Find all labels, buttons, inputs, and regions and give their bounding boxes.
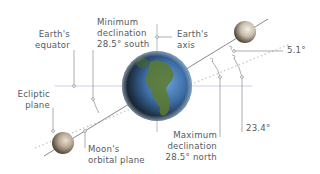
label-line: orbital plane (88, 155, 145, 166)
moon-lower-left (52, 132, 74, 154)
label-line: axis (177, 40, 208, 51)
label-maximum-declination: Maximum declination 28.5° north (166, 130, 217, 163)
label-line: plane (18, 100, 50, 111)
label-line: 28.5° north (166, 152, 217, 163)
earth-globe (122, 51, 192, 121)
lunar-declination-diagram: Earth's equator Minimum declination 28.5… (0, 0, 320, 174)
axial-tilt-arc (234, 58, 242, 132)
moon-upper-right (234, 21, 256, 43)
label-line: declination (97, 28, 149, 39)
label-line: equator (35, 40, 70, 51)
label-line: Earth's (177, 29, 208, 40)
label-line: 23.4° (246, 123, 270, 133)
label-line: 28.5° south (97, 39, 149, 50)
label-ecliptic-plane: Ecliptic plane (18, 89, 50, 111)
label-line: Earth's (35, 29, 70, 40)
label-angle-23-4: 23.4° (246, 123, 270, 134)
label-line: Moon's (88, 144, 145, 155)
label-line: Minimum (97, 17, 149, 28)
min-declination-leader (93, 50, 99, 113)
label-moons-orbital-plane: Moon's orbital plane (88, 144, 145, 166)
label-angle-5-1: 5.1° (287, 45, 306, 56)
label-line: 5.1° (287, 45, 306, 55)
label-line: declination (166, 141, 217, 152)
max-declination-arc (212, 61, 220, 137)
label-minimum-declination: Minimum declination 28.5° south (97, 17, 149, 50)
label-earths-equator: Earth's equator (35, 29, 70, 51)
diagram-graphics (0, 0, 320, 174)
label-line: Ecliptic (18, 89, 50, 100)
label-earths-axis: Earth's axis (177, 29, 208, 51)
label-line: Maximum (166, 130, 217, 141)
